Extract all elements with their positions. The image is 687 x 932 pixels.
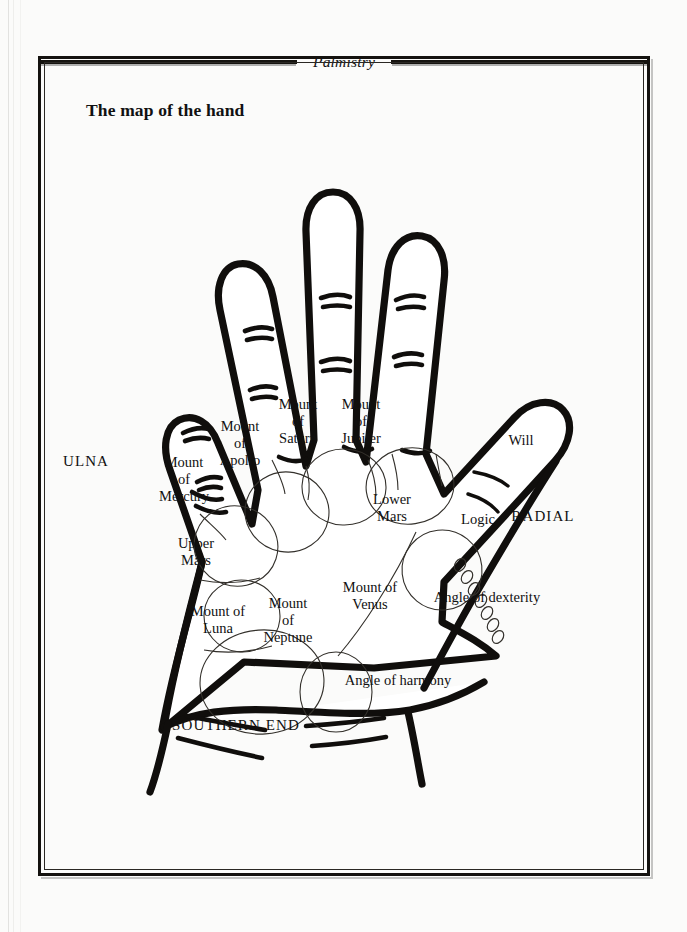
- hand-diagram-svg: [44, 62, 644, 870]
- label-lower-mars: Lower Mars: [373, 491, 411, 525]
- label-mount-of-venus: Mount of Venus: [343, 579, 397, 613]
- label-mount-of-apollo: Mount of Apollo: [220, 418, 260, 469]
- label-mount-of-saturn: Mount of Saturn: [279, 396, 318, 447]
- label-ulna: ULNA: [63, 453, 109, 470]
- label-southern-end: SOUTHERN END: [172, 717, 300, 734]
- scan-artifact-line: [8, 0, 9, 932]
- scan-artifact-line: [13, 0, 14, 932]
- hand-diagram: [44, 62, 644, 870]
- label-angle-harmony: Angle of harmony: [345, 672, 451, 689]
- label-mount-of-jupiter: Mount of Jupiter: [341, 396, 380, 447]
- label-upper-mars: Upper Mars: [178, 535, 214, 569]
- label-logic: Logic: [461, 511, 495, 528]
- scan-artifact-line: [20, 0, 21, 932]
- label-mount-of-luna: Mount of Luna: [191, 603, 245, 637]
- label-angle-dexterity: Angle of dexterity: [434, 589, 540, 606]
- label-mount-of-mercury: Mount of Mercury: [159, 454, 209, 505]
- label-will: Will: [508, 432, 533, 449]
- label-radial: RADIAL: [511, 508, 574, 525]
- label-mount-of-neptune: Mount of Neptune: [263, 595, 312, 646]
